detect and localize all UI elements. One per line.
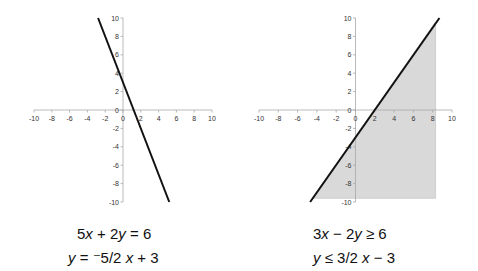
y-tick-label: 4 — [348, 70, 352, 77]
var-y: y — [354, 225, 362, 242]
relation: ≤ 3/2 — [321, 249, 363, 266]
left-equation-slope-intercept: y = ⁻5/2 x + 3 — [68, 249, 159, 267]
x-tick-label: -4 — [84, 115, 90, 122]
y-tick-label: 10 — [344, 15, 352, 22]
x-tick-label: 2 — [139, 115, 143, 122]
x-tick-label: -6 — [294, 115, 300, 122]
left-equation-standard: 5x + 2y = 6 — [77, 225, 151, 242]
x-tick-label: -10 — [254, 115, 264, 122]
var-x: x — [321, 225, 329, 242]
right-inequality-slope-intercept: y ≤ 3/2 x − 3 — [313, 249, 395, 266]
y-tick-label: 0 — [115, 107, 119, 114]
y-tick-label: 8 — [348, 33, 352, 40]
x-tick-label: -8 — [49, 115, 55, 122]
var-y: y — [68, 249, 76, 266]
x-tick-label: 2 — [373, 115, 377, 122]
y-tick-label: 2 — [348, 88, 352, 95]
y-tick-label: -2 — [113, 125, 119, 132]
right-inequality-standard: 3x − 2y ≥ 6 — [313, 225, 387, 242]
left-graph: -10-8-6-4-202468101086420-2-4-6-8-10 — [0, 0, 240, 210]
y-tick-label: -10 — [341, 199, 351, 206]
y-tick-label: -10 — [109, 199, 119, 206]
x-tick-label: 8 — [192, 115, 196, 122]
x-tick-label: 4 — [392, 115, 396, 122]
rhs: + 3 — [133, 249, 158, 266]
y-tick-label: 8 — [115, 33, 119, 40]
equals: = — [76, 249, 93, 266]
x-tick-label: -10 — [29, 115, 39, 122]
op: + 2 — [93, 225, 118, 242]
y-tick-label: -6 — [113, 162, 119, 169]
var-x: x — [85, 225, 93, 242]
op: − 2 — [329, 225, 354, 242]
x-tick-label: -4 — [314, 115, 320, 122]
y-tick-label: 10 — [111, 15, 119, 22]
y-tick-label: -8 — [113, 180, 119, 187]
x-tick-label: 0 — [121, 115, 125, 122]
x-tick-label: 10 — [448, 115, 456, 122]
fraction: 5/2 — [101, 249, 122, 266]
var-x: x — [362, 249, 370, 266]
rhs: − 3 — [370, 249, 395, 266]
var-y: y — [118, 225, 126, 242]
x-tick-label: -8 — [275, 115, 281, 122]
negative-sign: ⁻ — [93, 249, 101, 266]
y-tick-label: 6 — [115, 51, 119, 58]
x-tick-label: -2 — [333, 115, 339, 122]
x-tick-label: 10 — [208, 115, 216, 122]
x-tick-label: 6 — [174, 115, 178, 122]
x-tick-label: 6 — [411, 115, 415, 122]
y-tick-label: -4 — [113, 143, 119, 150]
y-tick-label: 2 — [115, 88, 119, 95]
x-tick-label: -6 — [66, 115, 72, 122]
x-tick-label: 0 — [354, 115, 358, 122]
var-y: y — [313, 249, 321, 266]
y-tick-label: 0 — [348, 107, 352, 114]
x-tick-label: -2 — [102, 115, 108, 122]
rhs: = 6 — [126, 225, 151, 242]
y-tick-label: -8 — [345, 180, 351, 187]
right-graph: -10-8-6-4-202468101086420-2-4-6-8-10 — [240, 0, 478, 210]
x-tick-label: 8 — [431, 115, 435, 122]
y-tick-label: -2 — [345, 125, 351, 132]
x-tick-label: 4 — [157, 115, 161, 122]
y-tick-label: 6 — [348, 51, 352, 58]
y-tick-label: -6 — [345, 162, 351, 169]
rhs: ≥ 6 — [362, 225, 387, 242]
